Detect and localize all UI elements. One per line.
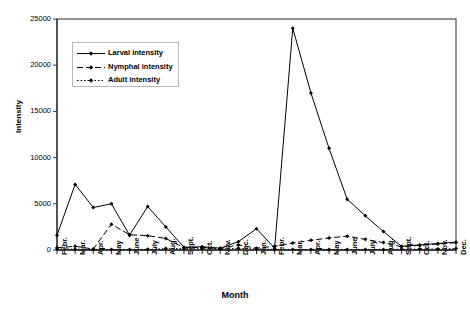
data-point-marker (55, 233, 59, 237)
data-point-marker (109, 247, 113, 251)
data-point-marker (291, 247, 295, 251)
data-point-marker (363, 247, 367, 251)
intensity-line-chart: Intensity Month 050001000015000200002500… (0, 0, 470, 311)
data-point-marker (109, 202, 113, 206)
data-point-marker (327, 146, 331, 150)
plot-area (0, 0, 470, 311)
data-point-marker (436, 242, 440, 246)
legend-line-swatch (76, 73, 106, 86)
legend-line-swatch (76, 60, 106, 73)
data-point-marker (128, 247, 132, 251)
data-point-marker (309, 247, 313, 251)
data-point-marker (327, 236, 331, 240)
data-point-marker (363, 237, 367, 241)
data-point-marker (291, 26, 295, 30)
data-point-marker (345, 234, 349, 238)
chart-legend: Larval intensityNymphal intensityAdult i… (72, 42, 179, 87)
legend-label: Nymphal intensity (108, 62, 173, 71)
data-point-marker (91, 247, 95, 251)
data-point-marker (309, 91, 313, 95)
data-point-marker (291, 241, 295, 245)
data-point-marker (309, 238, 313, 242)
data-point-marker (381, 241, 385, 245)
legend-line-swatch (76, 46, 106, 59)
data-point-marker (327, 247, 331, 251)
legend-item: Larval intensity (76, 46, 178, 59)
data-point-marker (345, 247, 349, 251)
data-point-marker (146, 234, 150, 238)
data-point-marker (454, 241, 458, 245)
data-point-marker (146, 247, 150, 251)
legend-item: Adult intensity (76, 73, 178, 86)
data-point-marker (164, 236, 168, 240)
legend-item: Nymphal intensity (76, 60, 178, 73)
data-point-marker (418, 243, 422, 247)
legend-label: Larval intensity (108, 48, 163, 57)
data-point-marker (236, 243, 240, 247)
legend-label: Adult intensity (108, 75, 160, 84)
data-point-marker (381, 247, 385, 251)
